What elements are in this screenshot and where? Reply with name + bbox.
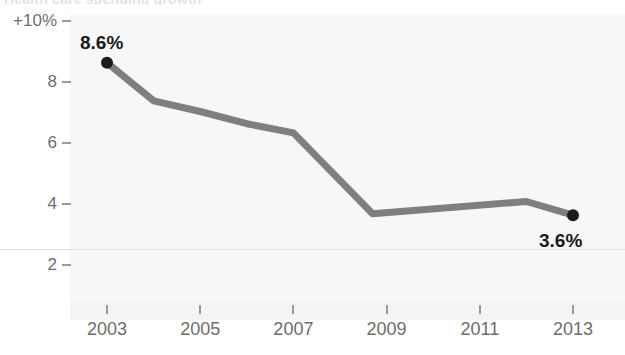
end-value-label: 3.6% xyxy=(539,231,582,250)
series-layer xyxy=(0,0,625,355)
data-point-2013 xyxy=(567,209,579,221)
chart-page: Health care spending growth +10%8642 200… xyxy=(0,0,625,355)
series-markers xyxy=(101,57,579,222)
start-value-label: 8.6% xyxy=(80,33,123,52)
series-line xyxy=(107,63,573,216)
data-point-2003 xyxy=(101,57,113,69)
